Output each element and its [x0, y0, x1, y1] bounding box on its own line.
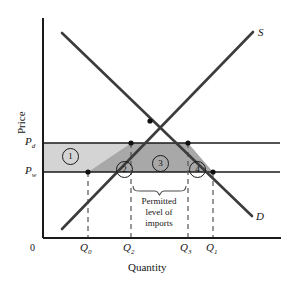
point-q2-pd	[128, 140, 133, 145]
y-axis-title: Price	[16, 111, 27, 134]
region-3-label: 3	[152, 155, 169, 172]
imports-annotation: Permitted level of imports	[124, 196, 194, 229]
imports-brace	[133, 186, 186, 195]
import-quota-figure: Price Quantity 0 Pd Pw Q0 Q2 Q3 Q1 S D 1…	[0, 0, 288, 282]
qty-tick-q3: Q3	[180, 242, 191, 256]
point-q1-pw	[210, 169, 215, 174]
qty-tick-q2-sub: 2	[131, 248, 135, 256]
price-tick-pd-sub: d	[32, 142, 36, 150]
region-2-label: 2	[116, 161, 133, 178]
qty-tick-q3-sub: 3	[188, 248, 192, 256]
imports-annotation-line-3: imports	[124, 218, 194, 229]
origin-label: 0	[30, 243, 35, 253]
price-tick-pw-base: P	[25, 164, 32, 176]
demand-curve	[62, 33, 252, 216]
price-tick-pw: Pw	[25, 165, 36, 179]
qty-tick-q2-base: Q	[123, 241, 131, 253]
qty-tick-q1-sub: 1	[214, 248, 218, 256]
price-tick-pd: Pd	[25, 136, 35, 150]
price-tick-pw-sub: w	[32, 171, 37, 179]
region-1-label: 1	[62, 148, 79, 165]
x-axis-title: Quantity	[128, 262, 167, 273]
qty-tick-q3-base: Q	[180, 241, 188, 253]
qty-tick-q1: Q1	[206, 242, 217, 256]
qty-tick-q0-base: Q	[80, 241, 88, 253]
imports-annotation-line-1: Permitted	[124, 196, 194, 207]
demand-curve-label: D	[256, 211, 264, 222]
figure-canvas	[0, 0, 288, 282]
imports-annotation-line-2: level of	[124, 207, 194, 218]
qty-tick-q1-base: Q	[206, 241, 214, 253]
region-4-label: 4	[189, 161, 206, 178]
qty-tick-q2: Q2	[123, 242, 134, 256]
price-tick-pd-base: P	[25, 135, 32, 147]
qty-tick-q0: Q0	[80, 242, 91, 256]
point-equilibrium	[147, 118, 152, 123]
point-q3-pd	[185, 140, 190, 145]
point-q0-pw	[85, 169, 90, 174]
qty-tick-q0-sub: 0	[88, 248, 92, 256]
supply-curve-label: S	[258, 27, 264, 38]
